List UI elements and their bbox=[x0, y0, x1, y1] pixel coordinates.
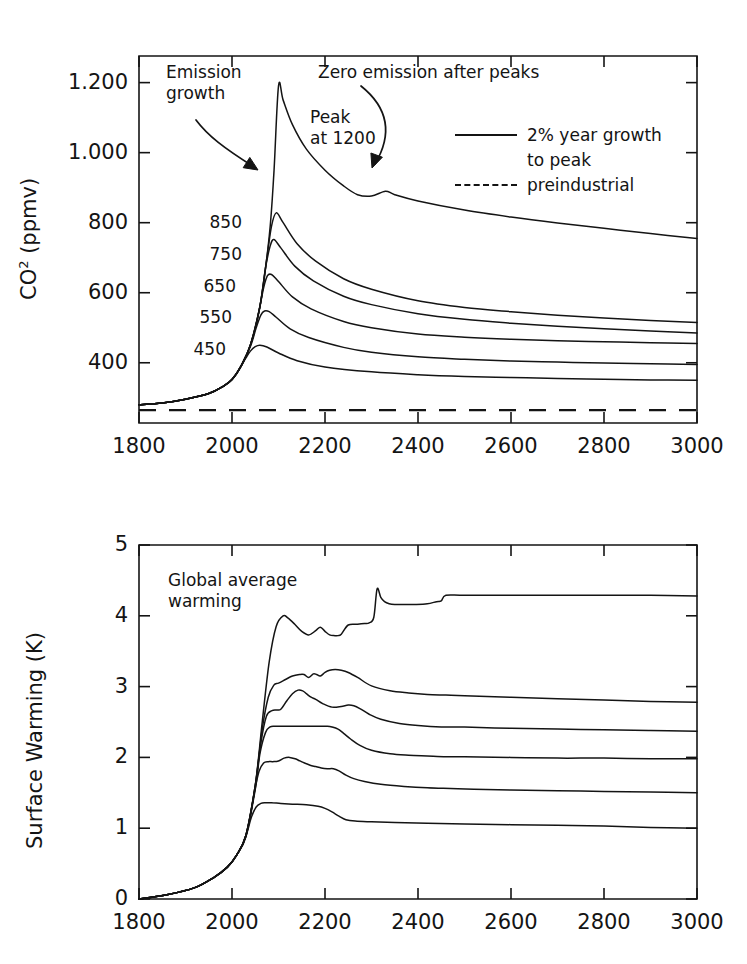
warming-xtick-1800: 1800 bbox=[99, 912, 179, 933]
warming-xtick-2000: 2000 bbox=[192, 912, 272, 933]
annotation-global-average-warming: Global average warming bbox=[168, 570, 297, 612]
figure-root: CO2 (ppmv) 1.200 1.000 800 600 400 1800 … bbox=[0, 0, 747, 964]
legend-swatch-solid-icon bbox=[455, 134, 517, 136]
co2-ytick-600: 600 bbox=[44, 282, 128, 303]
warming-ytick-2: 2 bbox=[84, 746, 128, 767]
co2-axis-frame bbox=[139, 56, 697, 423]
co2-chart-panel: CO2 (ppmv) 1.200 1.000 800 600 400 1800 … bbox=[0, 0, 747, 480]
co2-xtick-2000: 2000 bbox=[192, 436, 272, 457]
warming-xtick-2400: 2400 bbox=[378, 912, 458, 933]
co2-curve-label-650: 650 bbox=[180, 278, 236, 295]
co2-curve-label-850: 850 bbox=[186, 214, 242, 231]
warming-y-axis-title: Surface Warming (K) bbox=[24, 632, 47, 849]
legend-label-growth-line2: to peak bbox=[527, 149, 591, 171]
legend-row-growth: 2% year growth bbox=[455, 124, 685, 149]
co2-y-axis-title-text: CO bbox=[17, 269, 41, 300]
warming-chart-panel: Surface Warming (K) 5 4 3 2 1 0 1800 200… bbox=[0, 484, 747, 964]
co2-xtick-2400: 2400 bbox=[378, 436, 458, 457]
legend-label-preindustrial: preindustrial bbox=[527, 174, 634, 196]
co2-ytick-1000: 1.000 bbox=[44, 142, 128, 163]
warming-xtick-2600: 2600 bbox=[471, 912, 551, 933]
warming-xtick-3000: 3000 bbox=[657, 912, 737, 933]
warming-xtick-2200: 2200 bbox=[285, 912, 365, 933]
co2-xtick-2200: 2200 bbox=[285, 436, 365, 457]
warming-ytick-0: 0 bbox=[84, 888, 128, 909]
co2-curve-label-750: 750 bbox=[186, 246, 242, 263]
annotation-peak-at-1200: Peak at 1200 bbox=[310, 107, 376, 149]
warming-ytick-1: 1 bbox=[84, 817, 128, 838]
warming-ytick-3: 3 bbox=[84, 676, 128, 697]
legend-row-preindustrial: preindustrial bbox=[455, 174, 685, 199]
warming-ytick-5: 5 bbox=[84, 534, 128, 555]
warming-xtick-2800: 2800 bbox=[564, 912, 644, 933]
co2-curve-label-450: 450 bbox=[170, 341, 226, 358]
warming-data-curves bbox=[139, 588, 697, 899]
co2-xtick-1800: 1800 bbox=[99, 436, 179, 457]
co2-ytick-800: 800 bbox=[44, 212, 128, 233]
co2-y-axis-title-unit: (ppmv) bbox=[17, 178, 41, 261]
co2-legend: 2% year growth to peak preindustrial bbox=[455, 124, 685, 199]
co2-y-axis-title-sup: 2 bbox=[16, 261, 31, 269]
co2-xtick-2800: 2800 bbox=[564, 436, 644, 457]
legend-row-growth-cont: to peak bbox=[455, 149, 685, 174]
annotation-emission-growth: Emission growth bbox=[166, 62, 242, 104]
co2-y-axis-title: CO2 (ppmv) bbox=[18, 178, 41, 300]
legend-swatch-dashed-icon bbox=[455, 184, 517, 188]
co2-xtick-3000: 3000 bbox=[657, 436, 737, 457]
co2-ytick-400: 400 bbox=[44, 352, 128, 373]
co2-curve-label-550: 550 bbox=[176, 309, 232, 326]
annotation-zero-emission: Zero emission after peaks bbox=[318, 62, 539, 83]
co2-ytick-1200: 1.200 bbox=[44, 72, 128, 93]
co2-xtick-2600: 2600 bbox=[471, 436, 551, 457]
warming-ytick-4: 4 bbox=[84, 605, 128, 626]
co2-axis-ticks bbox=[139, 56, 697, 423]
legend-label-growth-line1: 2% year growth bbox=[527, 124, 662, 146]
